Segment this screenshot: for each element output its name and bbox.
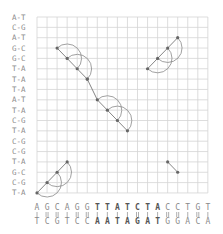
x-label-bottom: C xyxy=(195,217,200,226)
node-dot xyxy=(56,46,59,49)
x-label-bottom: A xyxy=(95,217,100,226)
y-label: T-A xyxy=(12,106,26,115)
node-dot xyxy=(176,36,179,39)
chain-edge xyxy=(168,162,178,172)
chain-edge xyxy=(158,48,168,58)
node-dot xyxy=(166,160,169,163)
x-label-top: A xyxy=(65,203,70,212)
x-label-bottom: T xyxy=(115,217,120,226)
chain-edge xyxy=(77,69,87,79)
x-label-bottom: T xyxy=(155,217,160,226)
node-dot xyxy=(96,98,99,101)
chain-bottom-left xyxy=(35,160,71,197)
x-label-bottom: A xyxy=(205,217,210,226)
node-dot xyxy=(106,109,109,112)
x-label-top: C xyxy=(55,203,60,212)
chain-edge xyxy=(57,162,67,172)
x-label-bottom: C xyxy=(85,217,90,226)
y-label: T-A xyxy=(12,157,26,166)
chain-top-right xyxy=(146,36,182,73)
x-label-top: G xyxy=(75,203,80,212)
node-dot xyxy=(116,119,119,122)
y-label: T-A xyxy=(12,188,26,197)
y-label: G-C xyxy=(12,44,26,53)
x-label-top: T xyxy=(95,203,100,212)
x-label-bottom: A xyxy=(105,217,110,226)
x-label-top: T xyxy=(105,203,110,212)
node-dot xyxy=(146,67,149,70)
node-dot xyxy=(76,67,79,70)
x-label-bottom: C xyxy=(45,217,50,226)
x-label-bottom: G xyxy=(175,217,180,226)
chain-middle xyxy=(86,78,132,133)
node-dot xyxy=(66,57,69,60)
y-label: A-T xyxy=(12,33,26,42)
x-label-bottom: G xyxy=(165,217,170,226)
chain-top-left xyxy=(56,44,92,81)
chain-edge xyxy=(107,110,117,120)
x-label-bottom: A xyxy=(125,217,130,226)
x-label-top: T xyxy=(205,203,210,212)
y-label: A-T xyxy=(12,13,26,22)
y-label: G-C xyxy=(12,168,26,177)
chain-edge xyxy=(57,48,67,58)
x-label-bottom: C xyxy=(75,217,80,226)
x-label-bottom: G xyxy=(55,217,60,226)
node-dot xyxy=(176,171,179,174)
chain-edge xyxy=(117,121,127,131)
chain-edge xyxy=(148,58,158,68)
y-label: A-T xyxy=(12,95,26,104)
x-label-top: C xyxy=(165,203,170,212)
x-label-top: A xyxy=(35,203,40,212)
node-dot xyxy=(56,171,59,174)
x-axis-labels: ATGCCGATGCGCTATAATTACGTAATCGCGTAGCTA xyxy=(35,203,211,226)
x-label-bottom: A xyxy=(185,217,190,226)
node-dot xyxy=(86,78,89,81)
node-dot xyxy=(126,129,129,132)
x-label-bottom: T xyxy=(35,217,40,226)
x-label-top: C xyxy=(135,203,140,212)
x-label-top: G xyxy=(195,203,200,212)
dot-plot: A-TC-GA-TG-CG-CT-AT-AT-AA-TT-AC-GT-AC-GC… xyxy=(0,0,223,234)
x-label-bottom: A xyxy=(145,217,150,226)
chain-edge xyxy=(67,58,77,68)
x-label-top: T xyxy=(125,203,130,212)
x-label-top: T xyxy=(145,203,150,212)
x-label-bottom: T xyxy=(65,217,70,226)
node-dot xyxy=(66,160,69,163)
y-label: C-G xyxy=(12,178,26,187)
x-label-bottom: G xyxy=(135,217,140,226)
node-dot xyxy=(156,57,159,60)
chain-edge xyxy=(37,183,47,193)
chain-edge xyxy=(47,172,57,182)
y-label: C-G xyxy=(12,23,26,32)
node-dot xyxy=(45,181,48,184)
node-dot xyxy=(35,191,38,194)
node-dot xyxy=(166,46,169,49)
y-label: C-G xyxy=(12,137,26,146)
chain-edge xyxy=(97,100,107,110)
x-label-top: A xyxy=(155,203,160,212)
x-label-top: T xyxy=(185,203,190,212)
x-label-top: C xyxy=(175,203,180,212)
y-label: C-G xyxy=(12,147,26,156)
y-label: T-A xyxy=(12,126,26,135)
y-label: C-G xyxy=(12,116,26,125)
y-axis-labels: A-TC-GA-TG-CG-CT-AT-AT-AA-TT-AC-GT-AC-GC… xyxy=(12,13,26,198)
y-label: T-A xyxy=(12,64,26,73)
y-label: G-C xyxy=(12,54,26,63)
y-label: T-A xyxy=(12,75,26,84)
y-label: T-A xyxy=(12,85,26,94)
x-label-top: G xyxy=(85,203,90,212)
chain-edge xyxy=(168,38,178,48)
x-label-top: A xyxy=(115,203,120,212)
x-label-top: G xyxy=(45,203,50,212)
